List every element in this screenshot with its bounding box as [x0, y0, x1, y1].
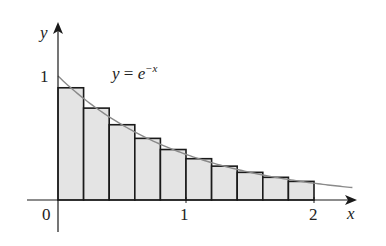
y-tick-1: 1 — [40, 68, 49, 85]
function-eq: = — [120, 64, 138, 83]
riemann-rectangle — [212, 166, 238, 200]
function-label: y = e−x — [112, 63, 158, 82]
riemann-rectangle — [109, 125, 135, 200]
riemann-rectangle — [58, 88, 84, 200]
x-tick-2: 2 — [309, 206, 318, 223]
function-exponent: −x — [145, 62, 157, 74]
riemann-rectangle — [135, 138, 161, 200]
y-axis-label: y — [40, 24, 48, 41]
riemann-rectangle — [237, 172, 263, 200]
riemann-rectangle — [288, 181, 314, 200]
x-axis-label: x — [347, 205, 355, 222]
riemann-rectangle — [160, 150, 186, 200]
riemann-rectangle — [186, 159, 212, 200]
x-tick-1: 1 — [180, 206, 189, 223]
riemann-sum-figure: y x 0 1 2 1 y = e−x — [0, 0, 386, 246]
riemann-rectangle — [84, 108, 110, 200]
riemann-rectangle — [263, 177, 289, 200]
function-lhs: y — [112, 64, 120, 83]
x-tick-0: 0 — [42, 206, 51, 223]
plot-area — [0, 0, 386, 246]
